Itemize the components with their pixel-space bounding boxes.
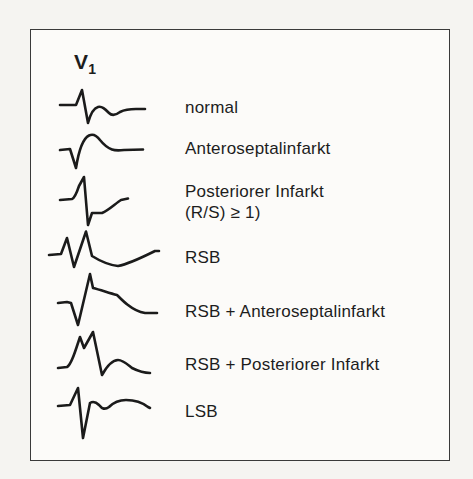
lead-v1-label: V1 [74, 50, 96, 77]
trace-path-rsb-posteriorer-infarkt [58, 332, 150, 375]
ecg-trace-posteriorer-infarkt [59, 176, 131, 228]
label-normal: normal [185, 97, 238, 118]
ecg-trace-rsb-posteriorer-infarkt [57, 330, 153, 378]
label-lsb: LSB [185, 401, 218, 422]
label-posteriorer-infarkt: Posteriorer Infarkt (R/S) ≥ 1) [185, 181, 324, 223]
label-rsb-anteroseptalinfarkt: RSB + Anteroseptalinfarkt [185, 301, 385, 322]
lead-subscript: 1 [88, 61, 96, 77]
lead-letter: V [74, 50, 88, 73]
label-rsb-posteriorer-infarkt: RSB + Posteriorer Infarkt [185, 354, 379, 375]
label-posteriorer-infarkt-line2: (R/S) ≥ 1) [185, 202, 324, 223]
ecg-trace-anteroseptalinfarkt [58, 130, 146, 172]
trace-path-lsb [58, 388, 150, 438]
ecg-trace-rsb [48, 229, 160, 271]
ecg-trace-normal [59, 85, 151, 127]
ecg-trace-lsb [57, 386, 153, 442]
trace-path-rsb-anteroseptalinfarkt [58, 274, 157, 325]
label-posteriorer-infarkt-line1: Posteriorer Infarkt [185, 181, 324, 202]
figure-page: V1 normal Anteroseptalinfarkt Posteriore… [0, 0, 473, 479]
ecg-trace-rsb-anteroseptalinfarkt [57, 272, 159, 328]
label-anteroseptalinfarkt: Anteroseptalinfarkt [185, 138, 331, 159]
trace-path-normal [60, 90, 145, 123]
trace-path-anteroseptalinfarkt [60, 135, 143, 168]
trace-path-posteriorer-infarkt [60, 177, 128, 225]
trace-path-rsb [49, 232, 159, 268]
label-rsb: RSB [185, 247, 221, 268]
